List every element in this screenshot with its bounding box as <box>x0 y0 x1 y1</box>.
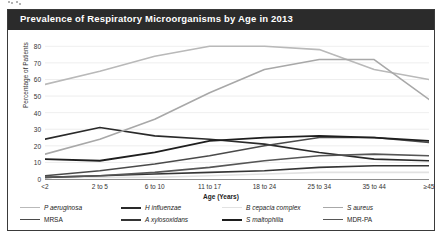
legend-item[interactable]: A xylosoxidans <box>121 216 222 223</box>
y-axis-tick-label: 40 <box>8 109 41 116</box>
legend-line-swatch <box>323 219 343 220</box>
legend-line-swatch <box>20 207 40 208</box>
legend-line-swatch <box>20 219 40 220</box>
x-axis-tick-label: ≥45 <box>424 183 435 190</box>
legend-item[interactable]: B cepacia complex <box>222 204 323 211</box>
legend-label: B cepacia complex <box>246 204 301 211</box>
x-axis-tick-label: 18 to 24 <box>253 183 277 190</box>
series-line <box>45 138 429 176</box>
chart-frame: Prevalence of Respiratory Microorganisms… <box>7 9 435 231</box>
y-axis-tick-label: 0 <box>8 176 41 183</box>
series-line <box>45 136 429 161</box>
chart-figure: Prevalence of Respiratory Microorganisms… <box>0 0 443 236</box>
x-axis-tick-label: 6 to 10 <box>145 183 165 190</box>
x-axis-line <box>45 179 429 180</box>
legend-line-swatch <box>222 207 242 208</box>
legend-item[interactable]: S maltophilia <box>222 216 323 223</box>
legend-label: MRSA <box>44 216 63 223</box>
legend-line-swatch <box>222 219 242 221</box>
y-axis-tick-label: 10 <box>8 159 41 166</box>
legend-label: A xylosoxidans <box>145 216 188 223</box>
scan-noise-artifact <box>8 1 22 7</box>
legend-item[interactable]: H influenzae <box>121 204 222 211</box>
series-lines <box>45 46 429 177</box>
legend-item[interactable]: MRSA <box>20 216 121 223</box>
x-axis-tick-label: <2 <box>41 183 48 190</box>
legend-label: H influenzae <box>145 204 181 211</box>
x-axis-tick-label: 2 to 5 <box>92 183 108 190</box>
plot-svg <box>45 38 429 179</box>
legend-item[interactable]: S aureus <box>323 204 424 211</box>
x-axis-tick-label: 35 to 44 <box>362 183 386 190</box>
x-axis-title: Age (Years) <box>8 193 434 200</box>
legend-line-swatch <box>121 207 141 209</box>
x-axis-tick-label: 25 to 34 <box>308 183 332 190</box>
legend-label: MDR-PA <box>347 216 372 223</box>
plot-area <box>45 38 429 179</box>
legend-label: S aureus <box>347 204 373 211</box>
legend-line-swatch <box>323 207 343 208</box>
y-axis-title: Percentage of Patients <box>22 42 29 108</box>
chart-legend: P aeruginosaH influenzaeB cepacia comple… <box>20 204 424 228</box>
chart-title-bar: Prevalence of Respiratory Microorganisms… <box>8 10 434 30</box>
legend-item[interactable]: MDR-PA <box>323 216 424 223</box>
chart-title: Prevalence of Respiratory Microorganisms… <box>20 13 293 24</box>
legend-row: P aeruginosaH influenzaeB cepacia comple… <box>20 204 424 211</box>
series-line <box>45 128 429 161</box>
series-line <box>45 46 429 84</box>
legend-row: MRSAA xylosoxidansS maltophiliaMDR-PA <box>20 216 424 223</box>
legend-label: S maltophilia <box>246 216 283 223</box>
legend-label: P aeruginosa <box>44 204 82 211</box>
legend-item[interactable]: P aeruginosa <box>20 204 121 211</box>
legend-line-swatch <box>121 219 141 221</box>
x-axis-tick-label: 11 to 17 <box>198 183 221 190</box>
y-axis-tick-label: 20 <box>8 142 41 149</box>
y-axis-tick-label: 30 <box>8 126 41 133</box>
